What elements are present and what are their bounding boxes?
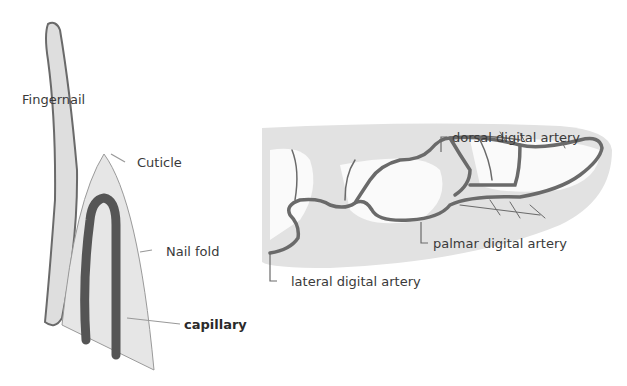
nail-fold-label: Nail fold <box>166 245 219 258</box>
capillary-label: capillary <box>184 318 247 331</box>
dorsal-artery-label: dorsal digital artery <box>452 131 580 144</box>
lateral-artery-label: lateral digital artery <box>291 275 421 288</box>
palmar-artery-label: palmar digital artery <box>433 237 567 250</box>
cuticle-label: Cuticle <box>137 156 182 169</box>
diagram-canvas <box>0 0 627 386</box>
fingernail-label: Fingernail <box>22 93 85 106</box>
